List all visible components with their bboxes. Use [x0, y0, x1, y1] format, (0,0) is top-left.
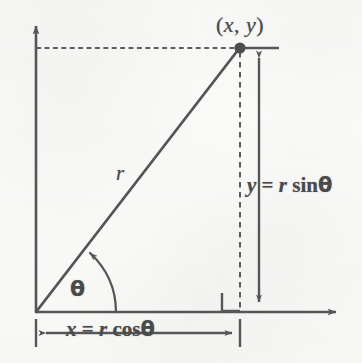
point-dot-icon: [234, 42, 245, 53]
radius-label: r: [116, 163, 124, 184]
point-label-x: x: [224, 12, 234, 37]
x-equation-radius: r: [99, 317, 107, 341]
y-equation-theta: θ: [318, 173, 332, 197]
angle-arc-arrow-icon: [90, 253, 116, 312]
angle-theta-label: θ: [70, 278, 85, 300]
x-equation-equals: =: [82, 317, 94, 341]
radius-hypotenuse-line: [36, 50, 238, 312]
x-equation-cos: cos: [112, 317, 140, 341]
y-equation-sin: sin: [292, 173, 318, 197]
point-label-comma: ,: [234, 12, 246, 37]
y-equation-radius: r: [279, 173, 287, 197]
y-equation-lhs: y: [247, 173, 256, 197]
diagram-canvas: (x, y) r θ y = r sinθ x = r cosθ: [0, 0, 362, 363]
point-label-open-paren: (: [216, 12, 224, 37]
x-equation-lhs: x: [66, 317, 77, 341]
point-coordinate-label: (x, y): [216, 14, 264, 36]
point-label-close-paren: ): [256, 12, 264, 37]
right-angle-marker-icon: [222, 293, 240, 311]
y-equation-equals: =: [262, 173, 274, 197]
y-equation-label: y = r sinθ: [247, 175, 332, 196]
point-label-y: y: [246, 12, 256, 37]
x-equation-theta: θ: [140, 317, 154, 341]
x-equation-label: x = r cosθ: [66, 319, 155, 340]
